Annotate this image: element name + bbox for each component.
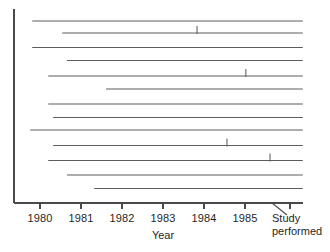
bars-group <box>30 21 303 189</box>
x-tick-label: 1985 <box>220 212 270 224</box>
study-timeline-chart: 198019811982198319841985 Year Study perf… <box>0 0 330 252</box>
axes-group <box>14 9 303 209</box>
x-axis-title: Year <box>123 229 203 241</box>
study-performed-line2: performed <box>272 225 322 238</box>
study-performed-annotation: Study performed <box>272 212 322 237</box>
study-performed-line1: Study <box>272 212 322 225</box>
